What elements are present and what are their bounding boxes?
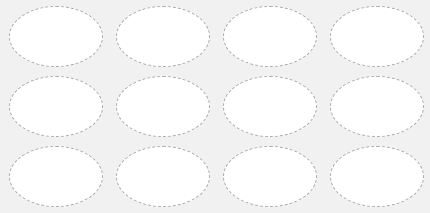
oval-label-r2-c2 (116, 76, 210, 137)
oval-label-r3-c3 (223, 146, 317, 207)
oval-label-r1-c2 (116, 6, 210, 67)
oval-label-r1-c3 (223, 6, 317, 67)
oval-label-r1-c1 (9, 6, 103, 67)
oval-label-r3-c4 (330, 146, 424, 207)
oval-label-r3-c2 (116, 146, 210, 207)
oval-label-r2-c1 (9, 76, 103, 137)
oval-label-r2-c3 (223, 76, 317, 137)
oval-label-r2-c4 (330, 76, 424, 137)
oval-label-sheet (0, 0, 430, 213)
oval-label-r3-c1 (9, 146, 103, 207)
oval-label-r1-c4 (330, 6, 424, 67)
